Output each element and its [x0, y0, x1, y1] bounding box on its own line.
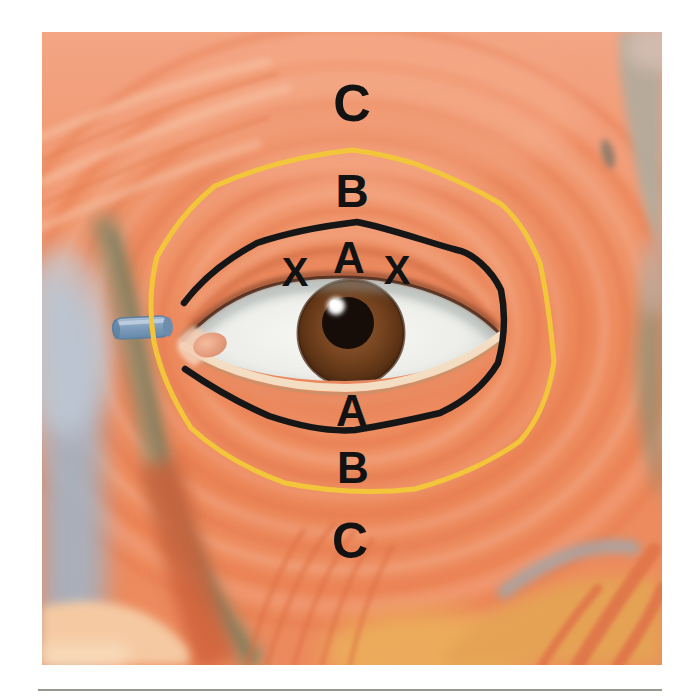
page-background: C B A X X A B C: [0, 0, 699, 699]
label-x-right: X: [384, 248, 411, 292]
label-b-top: B: [335, 165, 368, 217]
label-b-bottom: B: [337, 443, 369, 492]
medial-canthal-tendon: [111, 315, 173, 339]
label-a-bottom: A: [336, 386, 368, 435]
label-c-top: C: [333, 74, 371, 132]
label-a-top: A: [333, 233, 365, 282]
anatomy-canvas: C B A X X A B C: [42, 32, 662, 665]
label-x-left: X: [282, 250, 309, 294]
page-rule: [38, 689, 662, 691]
label-c-bottom: C: [332, 513, 368, 569]
anatomy-figure: C B A X X A B C: [42, 32, 662, 665]
